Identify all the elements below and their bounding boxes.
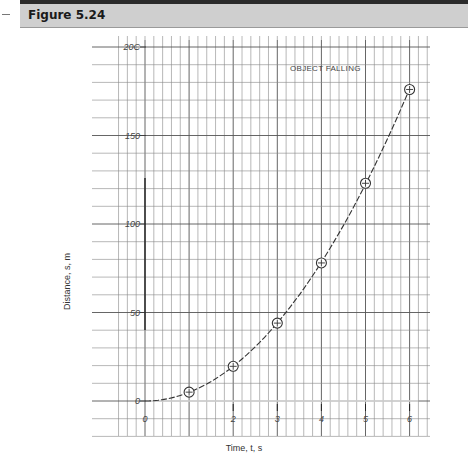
y-tick-label: 50 [130, 308, 140, 318]
y-tick-label: 0 [135, 396, 140, 406]
y-axis-label: Distance, s, m [62, 253, 72, 310]
data-point-marker [361, 178, 371, 188]
grid [92, 36, 430, 436]
chart-title: OBJECT FALLING [290, 64, 361, 73]
x-axis-label: Time, t, s [0, 443, 468, 453]
data-point-marker [184, 387, 194, 397]
x-tick-label: 2 [230, 414, 236, 424]
chart: 05010015020C023456 [0, 0, 468, 461]
x-tick-label: 4 [319, 414, 324, 424]
y-tick-label: 150 [125, 131, 140, 141]
x-tick-label: 3 [275, 414, 280, 424]
y-tick-label: 20C [122, 42, 140, 52]
data-point-marker [228, 361, 238, 371]
y-tick-label: 100 [125, 219, 140, 229]
x-tick-label: 0 [142, 414, 147, 424]
x-tick-label: 6 [407, 414, 412, 424]
data-point-marker [316, 258, 326, 268]
data-point-marker [405, 84, 415, 94]
data-point-marker [272, 318, 282, 328]
